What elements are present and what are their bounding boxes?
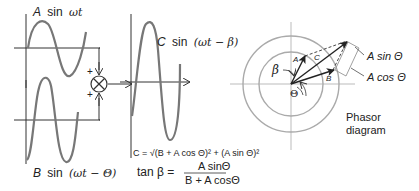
phasor-diagram: A C B β Θ A sin Θ A cos Θ Phasor diagram: [230, 22, 406, 150]
plus-sign-top: +: [87, 66, 93, 77]
equations: C = √(B + A cos Θ)² + (A sin Θ)² tan β =…: [133, 148, 259, 186]
vector-c-label: C: [314, 53, 320, 62]
waveform-a-curve: [28, 21, 86, 76]
phasor-caption-line1: Phasor: [346, 111, 381, 123]
waveform-c-label: C sin (ωt − β): [157, 35, 238, 49]
cos-leader: [351, 68, 364, 76]
waveform-a-label: A sin ωt: [32, 5, 83, 19]
beta-label: β: [271, 63, 279, 77]
tan-beta-denominator: B + A cosΘ: [185, 174, 240, 186]
summing-junction: + +: [87, 66, 107, 100]
tan-beta-lhs: tan β =: [137, 165, 174, 179]
waveform-b-label: B sin (ωt − Θ): [33, 166, 116, 180]
a-sin-theta-label: A sin Θ: [366, 50, 403, 62]
phasor-addition-diagram: A sin ωt B sin (ωt − Θ) + +: [0, 0, 419, 191]
a-cos-theta-label: A cos Θ: [366, 71, 406, 83]
tan-beta-numerator: A sinΘ: [198, 160, 231, 172]
vector-a-label: A: [292, 55, 298, 64]
waveform-c: C sin (ωt − β): [120, 14, 238, 158]
phasor-caption-line2: diagram: [346, 124, 386, 136]
theta-label: Θ: [290, 88, 298, 99]
waveform-b: B sin (ωt − Θ): [14, 78, 116, 180]
beta-arc: [283, 70, 294, 76]
vector-b-label: B: [326, 74, 332, 83]
magnitude-equation: C = √(B + A cos Θ)² + (A sin Θ)²: [133, 148, 259, 158]
plus-sign-bottom: +: [87, 89, 93, 100]
